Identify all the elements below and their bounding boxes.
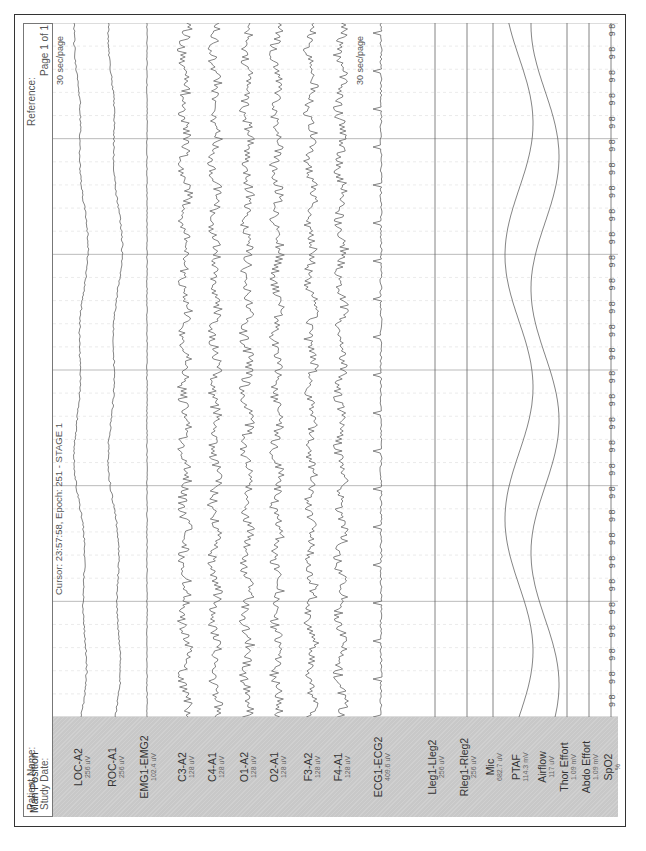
channel-label-rleg1-rleg2: Rleg1-Rleg2256 uV: [459, 717, 478, 817]
svg-text:9 8: 9 8: [607, 93, 617, 106]
svg-text:9 8: 9 8: [607, 648, 617, 661]
channel-scale: 256 uV: [438, 717, 446, 817]
channel-scale: 128 uV: [218, 717, 226, 817]
cursor-info: Cursor: 23:57:58, Epoch: 251 - STAGE 1: [53, 423, 64, 595]
channel-label-man-position: Man Position: [29, 713, 40, 813]
channel-name: Mic: [484, 759, 496, 775]
svg-text:9 8: 9 8: [607, 139, 617, 152]
channel-scale: 128 uV: [188, 717, 196, 817]
channel-label-thor-effort: Thor Effort1.09 mV: [559, 717, 578, 817]
channel-name: EMG1-EMG2: [138, 736, 150, 799]
svg-text:9 8: 9 8: [607, 394, 617, 407]
channel-name: C4-A1: [206, 752, 218, 782]
header-box: Patient Name: Study Date: Reference: Pag…: [23, 23, 53, 817]
channel-label-roc-a1: ROC-A1256 uV: [107, 717, 126, 817]
psg-page: Patient Name: Study Date: Reference: Pag…: [14, 14, 626, 827]
svg-text:9 8: 9 8: [607, 671, 617, 684]
channel-label-o2-a1: O2-A1128 uV: [269, 717, 288, 817]
channel-label-lleg1-lleg2: Lleg1-Lleg2256 uV: [427, 717, 446, 817]
timescale-label-top: 30 sec/page: [55, 36, 65, 85]
channel-label-abdo-effort: Abdo Effort1.09 mV: [581, 717, 600, 817]
svg-text:9 8: 9 8: [607, 533, 617, 546]
channel-name: Abdo Effort: [580, 741, 592, 793]
svg-text:9 8: 9 8: [607, 486, 617, 499]
channel-name: C3-A2: [176, 752, 188, 782]
channel-scale: 128 uV: [314, 717, 322, 817]
svg-text:9 8: 9 8: [607, 417, 617, 430]
svg-text:9 8: 9 8: [607, 556, 617, 569]
channel-label-column: Man PositionLOC-A2256 uVROC-A1256 uVEMG1…: [53, 717, 618, 817]
channel-label-spo2: SpO2%: [603, 717, 622, 817]
channel-scale: 117 uV: [548, 717, 556, 817]
signal-plot: 9 89 89 89 89 89 89 89 89 89 89 89 89 89…: [53, 23, 618, 717]
channel-label-airflow: Airflow117 uV: [537, 717, 556, 817]
study-date-label: Study Date:: [39, 758, 50, 810]
channel-name: SpO2: [602, 754, 614, 781]
channel-name: O2-A1: [268, 752, 280, 782]
channel-scale: 102.4 uV: [150, 717, 158, 817]
svg-text:9 8: 9 8: [607, 70, 617, 83]
channel-scale: 128 uV: [280, 717, 288, 817]
channel-scale: 256 uV: [84, 717, 92, 817]
channel-name: Thor Effort: [558, 742, 570, 791]
channel-label-f4-a1: F4-A1128 uV: [333, 717, 352, 817]
svg-text:9 8: 9 8: [607, 162, 617, 175]
channel-name: Rleg1-Rleg2: [458, 738, 470, 796]
channel-name: Man Position: [28, 752, 40, 813]
svg-text:9 8: 9 8: [607, 440, 617, 453]
channel-scale: 256 uV: [118, 717, 126, 817]
channel-scale: 256 uV: [470, 717, 478, 817]
svg-text:9 8: 9 8: [607, 324, 617, 337]
svg-text:9 8: 9 8: [607, 625, 617, 638]
svg-text:9 8: 9 8: [607, 232, 617, 245]
channel-name: PTAF: [510, 754, 522, 780]
channel-label-o1-a2: O1-A2128 uV: [239, 717, 258, 817]
svg-text:9 8: 9 8: [607, 209, 617, 222]
channel-name: ROC-A1: [106, 747, 118, 787]
svg-text:9 8: 9 8: [607, 509, 617, 522]
svg-text:9 8: 9 8: [607, 694, 617, 707]
channel-label-loc-a2: LOC-A2256 uV: [73, 717, 92, 817]
channel-label-emg1-emg2: EMG1-EMG2102.4 uV: [139, 717, 158, 817]
channel-name: F3-A2: [302, 753, 314, 782]
svg-text:9 8: 9 8: [607, 255, 617, 268]
svg-text:9 8: 9 8: [607, 602, 617, 615]
timescale-label-lower: 30 sec/page: [355, 36, 365, 85]
rotated-recording: Patient Name: Study Date: Reference: Pag…: [15, 15, 624, 825]
svg-text:9 8: 9 8: [607, 301, 617, 314]
channel-scale: 114.3 mV: [522, 717, 530, 817]
svg-text:9 8: 9 8: [607, 24, 617, 37]
channel-scale: %: [614, 717, 622, 817]
channel-name: Lleg1-Lleg2: [426, 740, 438, 795]
channel-name: F4-A1: [332, 753, 344, 782]
svg-text:9 8: 9 8: [607, 278, 617, 291]
svg-text:9 8: 9 8: [607, 347, 617, 360]
svg-text:9 8: 9 8: [607, 579, 617, 592]
channel-name: LOC-A2: [72, 748, 84, 786]
channel-scale: 1.09 mV: [570, 717, 578, 817]
channel-name: ECG1-ECG2: [372, 737, 384, 798]
svg-text:9 8: 9 8: [607, 186, 617, 199]
channel-label-ecg1-ecg2: ECG1-ECG2409.6 uV: [373, 717, 392, 817]
channel-scale: 409.6 uV: [384, 717, 392, 817]
channel-name: Airflow: [536, 751, 548, 783]
channel-label-c3-a2: C3-A2128 uV: [177, 717, 196, 817]
reference-label: Reference:: [26, 77, 37, 126]
channel-name: O1-A2: [238, 752, 250, 782]
channel-label-ptaf: PTAF114.3 mV: [511, 717, 530, 817]
svg-text:9 8: 9 8: [607, 116, 617, 129]
channel-scale: 128 uV: [250, 717, 258, 817]
svg-text:9 8: 9 8: [607, 371, 617, 384]
svg-text:9 8: 9 8: [607, 463, 617, 476]
channel-label-c4-a1: C4-A1128 uV: [207, 717, 226, 817]
channel-label-f3-a2: F3-A2128 uV: [303, 717, 322, 817]
channel-scale: 1.09 mV: [592, 717, 600, 817]
svg-text:9 8: 9 8: [607, 47, 617, 60]
channel-label-mic: Mic682.7 uV: [485, 717, 504, 817]
page-indicator: Page 1 of 1: [39, 25, 50, 76]
channel-scale: 128 uV: [344, 717, 352, 817]
channel-scale: 682.7 uV: [496, 717, 504, 817]
